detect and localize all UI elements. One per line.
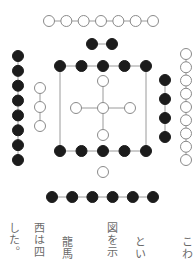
black-dot-icon bbox=[160, 113, 171, 124]
black-dot-icon bbox=[160, 132, 171, 143]
white-dot-icon bbox=[181, 128, 192, 139]
white-dot-icon bbox=[35, 102, 46, 113]
text-column: 龍馬 bbox=[60, 236, 72, 260]
black-dot-icon bbox=[119, 61, 130, 72]
text-column: 図を示 bbox=[105, 222, 117, 258]
black-dot-icon bbox=[87, 39, 98, 50]
white-dot-icon bbox=[181, 49, 192, 60]
hetu-diagram bbox=[0, 0, 193, 210]
text-column: とい bbox=[133, 236, 145, 260]
white-dot-icon bbox=[35, 83, 46, 94]
text-column: 西は四 bbox=[32, 222, 44, 258]
black-dot-icon bbox=[76, 61, 87, 72]
black-dot-icon bbox=[107, 192, 118, 203]
black-dot-icon bbox=[55, 61, 66, 72]
black-dot-icon bbox=[141, 146, 152, 157]
white-dot-icon bbox=[181, 62, 192, 73]
black-dot-icon bbox=[47, 192, 58, 203]
white-dot-icon bbox=[181, 75, 192, 86]
text-column: こわ bbox=[180, 236, 192, 260]
black-dot-icon bbox=[13, 155, 24, 166]
black-dot-icon bbox=[13, 140, 24, 151]
white-dot-icon bbox=[125, 103, 136, 114]
black-dot-icon bbox=[148, 192, 159, 203]
black-dot-icon bbox=[160, 75, 171, 86]
black-dot-icon bbox=[87, 192, 98, 203]
black-dot-icon bbox=[13, 51, 24, 62]
black-dot-icon bbox=[13, 95, 24, 106]
white-dot-icon bbox=[181, 88, 192, 99]
white-dot-icon bbox=[35, 121, 46, 132]
black-dot-icon bbox=[141, 61, 152, 72]
black-dot-icon bbox=[67, 192, 78, 203]
white-dot-icon bbox=[98, 76, 109, 87]
black-dot-icon bbox=[13, 80, 24, 91]
white-dot-icon bbox=[98, 167, 109, 178]
black-dot-icon bbox=[55, 146, 66, 157]
white-dot-icon bbox=[113, 16, 124, 27]
white-dot-icon bbox=[148, 16, 159, 27]
black-dot-icon bbox=[98, 146, 109, 157]
black-dot-icon bbox=[160, 94, 171, 105]
black-dot-icon bbox=[76, 146, 87, 157]
black-dot-icon bbox=[107, 39, 118, 50]
text-column: した。 bbox=[7, 222, 19, 258]
white-dot-icon bbox=[71, 103, 82, 114]
white-dot-icon bbox=[181, 141, 192, 152]
white-dot-icon bbox=[181, 155, 192, 166]
black-dot-icon bbox=[98, 61, 109, 72]
white-dot-icon bbox=[44, 16, 55, 27]
white-dot-icon bbox=[61, 16, 72, 27]
white-dot-icon bbox=[98, 103, 109, 114]
white-dot-icon bbox=[130, 16, 141, 27]
white-dot-icon bbox=[78, 16, 89, 27]
white-dot-icon bbox=[98, 130, 109, 141]
white-dot-icon bbox=[181, 102, 192, 113]
white-dot-icon bbox=[96, 16, 107, 27]
black-dot-icon bbox=[13, 125, 24, 136]
white-dot-icon bbox=[181, 115, 192, 126]
black-dot-icon bbox=[119, 146, 130, 157]
black-dot-icon bbox=[127, 192, 138, 203]
black-dot-icon bbox=[13, 65, 24, 76]
black-dot-icon bbox=[13, 110, 24, 121]
